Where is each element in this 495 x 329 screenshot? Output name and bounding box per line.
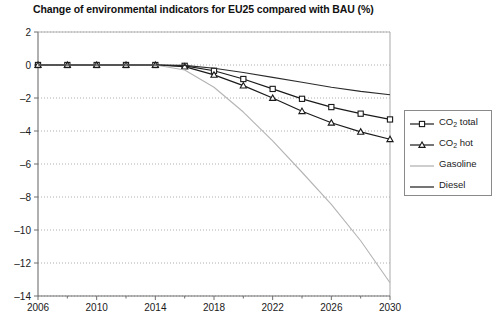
x-axis-ticks: 2006201020142018202220262030 <box>27 296 402 313</box>
chart-container: Change of environmental indicators for E… <box>0 0 495 329</box>
data-marker-square <box>299 96 304 101</box>
chart-legend: CO2 totalCO2 hotGasolineDiesel <box>404 110 492 196</box>
legend-swatch-square-icon <box>409 116 435 128</box>
y-tick-label: –12 <box>14 258 31 269</box>
data-marker-triangle <box>299 108 305 114</box>
y-tick-label: 0 <box>25 60 31 71</box>
x-tick-label: 2014 <box>144 302 167 313</box>
y-tick-label: –2 <box>20 93 32 104</box>
data-marker-triangle <box>358 129 364 135</box>
y-tick-label: –10 <box>14 225 31 236</box>
legend-swatch-line-icon <box>409 158 435 170</box>
legend-item-diesel[interactable]: Diesel <box>405 174 491 195</box>
x-tick-label: 2018 <box>203 302 226 313</box>
x-tick-label: 2006 <box>27 302 50 313</box>
y-tick-label: –4 <box>20 126 32 137</box>
legend-label: CO2 total <box>439 117 478 127</box>
data-marker-square <box>270 86 275 91</box>
y-tick-label: 2 <box>25 27 31 38</box>
legend-label: CO2 hot <box>439 138 473 148</box>
x-tick-label: 2010 <box>86 302 109 313</box>
y-tick-label: –6 <box>20 159 32 170</box>
legend-item-co2-hot[interactable]: CO2 hot <box>405 132 491 153</box>
data-marker-triangle <box>387 136 393 142</box>
legend-item-co2-total[interactable]: CO2 total <box>405 111 491 132</box>
data-marker-triangle <box>270 95 276 101</box>
y-tick-label: –8 <box>20 192 32 203</box>
data-marker-square <box>387 117 392 122</box>
data-marker-triangle <box>328 120 334 126</box>
legend-swatch-line-icon <box>409 179 435 191</box>
legend-label: Gasoline <box>439 159 477 169</box>
legend-label: Diesel <box>439 180 465 190</box>
series-line-gasoline <box>38 65 390 283</box>
data-series <box>35 62 393 283</box>
x-tick-label: 2022 <box>262 302 285 313</box>
x-tick-label: 2026 <box>320 302 343 313</box>
y-tick-label: –14 <box>14 291 31 302</box>
legend-swatch-triangle-icon <box>409 137 435 149</box>
x-tick-label: 2030 <box>379 302 402 313</box>
data-marker-square <box>241 76 246 81</box>
data-marker-triangle <box>240 83 246 89</box>
data-marker-square <box>358 111 363 116</box>
data-marker-square <box>329 104 334 109</box>
legend-item-gasoline[interactable]: Gasoline <box>405 153 491 174</box>
